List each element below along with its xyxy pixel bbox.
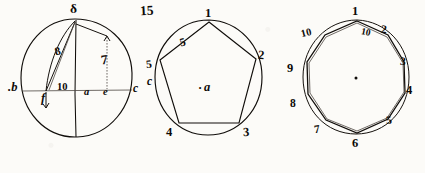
decagon-vertex-1: 1 [352, 5, 358, 18]
decagon-inner-10: 10 [360, 27, 371, 38]
figure-inscribed-decagon [303, 20, 409, 134]
decagon-vertex-5: 5 [385, 115, 392, 127]
label-seven-vert: 7 [100, 53, 108, 67]
figure-inscribed-pentagon [155, 20, 262, 135]
label-b-left: .b [8, 81, 17, 94]
decagon-centre-dot [355, 77, 358, 80]
label-a-centre: a [84, 87, 89, 98]
label-ten: 10 [57, 82, 68, 93]
label-f-lower: f [41, 92, 45, 105]
label-delta-top: δ [70, 2, 77, 16]
pentagon-side-c: c [147, 76, 152, 88]
pentagon-circumcircle [155, 20, 262, 135]
vertical-diameter [75, 20, 76, 137]
pentagon-centre: a [204, 81, 210, 94]
decagon-vertex-9: 9 [287, 62, 293, 75]
decagon-vertex-7: 7 [313, 124, 320, 136]
pentagon-vertex-2: 2 [257, 49, 264, 62]
pentagon-vertex-1: 1 [205, 7, 211, 20]
pentagon-outline [160, 22, 256, 123]
pentagon-centre-dot: · [198, 82, 202, 95]
horizontal-diameter [22, 90, 132, 91]
label-c-right: c [133, 83, 138, 95]
circle-outline [21, 19, 132, 137]
decagon-vertex-3: 3 [400, 56, 407, 68]
pentagon-vertex-3: 3 [243, 126, 250, 139]
decagon-vertex-6: 6 [352, 137, 358, 150]
decagon-vertex-8: 8 [290, 98, 296, 110]
manuscript-page: 15 δ .b c f 10 a e 8 7 1 2 3 4 5 5 c a ·… [0, 0, 425, 173]
pentagon-vertex-5: 5 [145, 59, 152, 71]
figure-number: 15 [140, 4, 154, 18]
pentagon-vertex-4: 4 [166, 126, 172, 139]
decagon-vertex-4: 4 [406, 84, 412, 97]
decagon-vertex-2: 2 [381, 24, 388, 36]
label-e-right-foot: e [103, 87, 108, 98]
figure-circle-with-chords [21, 19, 132, 137]
